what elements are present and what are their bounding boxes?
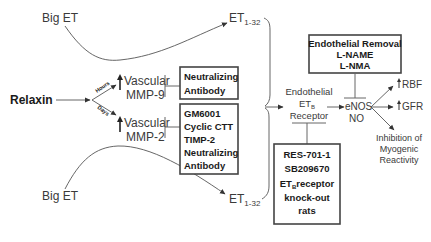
gfr-label: GFR — [402, 101, 423, 112]
receptor-line2: ETB — [299, 98, 315, 110]
mmp2-box-line5: Antibody — [184, 160, 226, 171]
vascular-mmp2-line2: MMP-2 — [126, 130, 165, 144]
big-et-bottom-label: Big ET — [42, 189, 79, 203]
big-et-top-to-et-arrow — [65, 23, 227, 60]
enos-label: eNOS — [345, 101, 373, 112]
mmp2-box-line1: GM6001 — [184, 108, 221, 119]
receptor-box-line3: ETBreceptor — [280, 178, 335, 190]
rbf-up-arrow-icon — [397, 78, 401, 82]
mmp9-box-line2: Antibody — [184, 85, 226, 96]
endothelial-box-line1: Endothelial Removal — [308, 38, 401, 49]
mmp2-box-line3: TIMP-2 — [184, 134, 215, 145]
gfr-up-arrow-icon — [397, 100, 401, 104]
days-label: Days — [96, 104, 110, 117]
receptor-box-line4: knock-out — [284, 192, 330, 203]
receptor-line3: Receptor — [290, 110, 329, 121]
et-top-brace — [264, 18, 270, 106]
receptor-box-line2: SB209670 — [285, 163, 330, 174]
rbf-label: RBF — [402, 79, 422, 90]
et-top-label: ET1-32 — [229, 11, 261, 27]
vascular-mmp9-line1: Vascular — [124, 74, 170, 88]
myogenic-line1: Inhibition of — [376, 133, 423, 143]
relaxin-label: Relaxin — [10, 93, 53, 107]
vascular-mmp9-line2: MMP-9 — [126, 88, 165, 102]
et-bottom-brace — [262, 108, 269, 199]
endothelial-box-line3: L-NMA — [340, 60, 371, 71]
mmp9-box-line1: Neutralizing — [184, 71, 239, 82]
mmp9-up-arrow-icon — [117, 74, 123, 80]
mmp2-box-line2: Cyclic CTT — [184, 121, 233, 132]
myogenic-line3: Reactivity — [379, 155, 419, 165]
myogenic-line2: Myogenic — [380, 144, 419, 154]
hours-label: Hours — [94, 80, 110, 94]
mmp2-box-line4: Neutralizing — [184, 147, 239, 158]
enos-to-myogenic-arrow — [371, 107, 394, 130]
receptor-line1: Endothelial — [285, 86, 332, 97]
relaxin-pathway-diagram: Big ET ET1-32 Big ET ET1-32 Relaxin Hour… — [0, 0, 431, 242]
receptor-box-line1: RES-701-1 — [284, 149, 332, 160]
mmp2-up-arrow-icon — [117, 116, 123, 122]
receptor-box-line5: rats — [298, 205, 315, 216]
enos-to-rbf-arrow — [371, 86, 393, 107]
endothelial-box-line2: L-NAME — [337, 49, 374, 60]
vascular-mmp2-line1: Vascular — [124, 116, 170, 130]
big-et-top-label: Big ET — [42, 11, 79, 25]
no-label: NO — [349, 113, 364, 124]
et-bottom-label: ET1-32 — [229, 192, 261, 208]
